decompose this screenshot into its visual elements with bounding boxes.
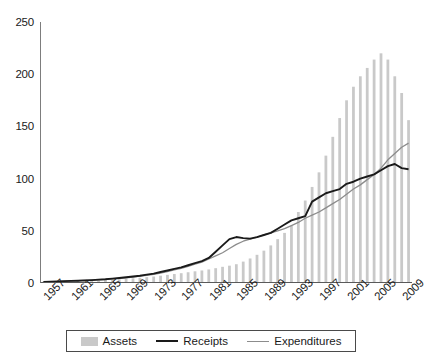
y-axis-tick-label: 50: [22, 225, 34, 237]
legend-label-receipts: Receipts: [183, 335, 228, 347]
assets-bar: [283, 233, 286, 283]
y-axis-tick-label: 250: [15, 16, 34, 28]
chart-canvas: [40, 22, 412, 283]
y-axis-tick-label: 100: [15, 173, 34, 185]
x-axis-tick-labels: 1957196119651969197319771981198519891993…: [40, 286, 422, 330]
y-axis-tick-label: 150: [15, 120, 34, 132]
y-axis-tick-label: 200: [15, 68, 34, 80]
assets-bar: [318, 172, 321, 283]
assets-bar: [269, 245, 272, 283]
legend-item-expenditures: Expenditures: [247, 335, 341, 347]
assets-bar: [207, 269, 210, 283]
assets-bar: [345, 100, 348, 283]
assets-bar: [325, 156, 328, 283]
assets-swatch-icon: [81, 337, 98, 346]
y-axis-tick-labels: 050100150200250: [0, 22, 34, 283]
legend-item-receipts: Receipts: [156, 335, 228, 347]
expenditures-swatch-icon: [247, 341, 269, 342]
assets-bar: [242, 262, 245, 283]
assets-bar: [373, 60, 376, 283]
assets-bar: [256, 255, 259, 283]
assets-bar: [214, 268, 217, 283]
plot-area: [40, 22, 412, 283]
assets-bars: [42, 53, 410, 283]
legend-label-expenditures: Expenditures: [274, 335, 341, 347]
assets-bar: [187, 272, 190, 283]
assets-bar: [235, 264, 238, 283]
assets-bar: [180, 273, 183, 283]
y-axis-tick-label: 0: [28, 277, 34, 289]
chart-legend: Assets Receipts Expenditures: [66, 330, 356, 352]
legend-label-assets: Assets: [103, 335, 138, 347]
assets-bar: [263, 251, 266, 283]
assets-bar: [331, 137, 334, 283]
assets-bar: [393, 76, 396, 283]
assets-bar: [400, 93, 403, 283]
assets-bar: [407, 120, 410, 283]
assets-bar: [290, 226, 293, 283]
receipts-swatch-icon: [156, 340, 178, 342]
assets-bar: [159, 276, 162, 283]
assets-bar: [387, 60, 390, 283]
legend-item-assets: Assets: [81, 335, 138, 347]
assets-bar: [352, 87, 355, 283]
